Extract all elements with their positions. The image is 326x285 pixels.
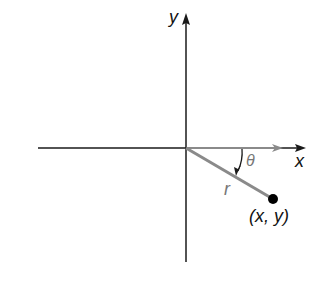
angle-arc — [238, 149, 242, 171]
point-xy — [268, 194, 278, 204]
x-axis-label: x — [295, 152, 304, 170]
y-axis-label: y — [169, 8, 178, 26]
polar-diagram — [0, 0, 326, 285]
point-label: (x, y) — [249, 207, 289, 225]
radius-label: r — [224, 180, 230, 198]
angle-arc-arrow-icon — [234, 165, 241, 176]
angle-label: θ — [246, 153, 255, 169]
